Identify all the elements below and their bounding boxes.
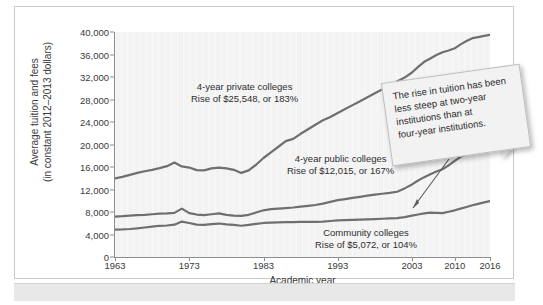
y-tick-mark <box>110 122 114 123</box>
x-tick-label: 1983 <box>253 260 274 271</box>
series-label-community-line1: Community colleges <box>315 227 417 239</box>
y-axis-title: Average tuition and fees (in constant 20… <box>28 7 54 217</box>
x-tick-mark <box>412 257 413 261</box>
y-tick-mark <box>110 189 114 190</box>
series-label-private-line2: Rise of $25,548, or 183% <box>191 93 298 105</box>
series-label-private: 4-year private colleges Rise of $25,548,… <box>191 81 298 105</box>
series-label-public-line2: Rise of $12,015, or 167% <box>287 165 394 177</box>
y-tick-mark <box>110 54 114 55</box>
x-tick-label: 1973 <box>179 260 200 271</box>
y-tick-mark <box>110 77 114 78</box>
series-label-community-line2: Rise of $5,072, or 104% <box>315 239 417 251</box>
series-label-public: 4-year public colleges Rise of $12,015, … <box>287 153 394 177</box>
y-tick-label: 40,000 <box>80 27 109 38</box>
y-tick-mark <box>110 32 114 33</box>
y-tick-label: 28,000 <box>80 94 109 105</box>
y-axis-title-line1: Average tuition and fees <box>28 7 41 217</box>
y-tick-label: 4,000 <box>85 229 109 240</box>
figure-panel: 04,0008,00012,00016,00020,00024,00028,00… <box>14 6 514 279</box>
x-axis-line <box>114 257 491 258</box>
y-tick-label: 16,000 <box>80 162 109 173</box>
y-axis-title-line2: (in constant 2012–2013 dollars) <box>41 7 54 217</box>
y-tick-mark <box>110 144 114 145</box>
x-tick-label: 1993 <box>327 260 348 271</box>
y-tick-label: 24,000 <box>80 117 109 128</box>
x-tick-mark <box>115 257 116 261</box>
series-label-private-line1: 4-year private colleges <box>191 81 298 93</box>
y-tick-label: 12,000 <box>80 184 109 195</box>
x-tick-label: 2016 <box>479 260 500 271</box>
y-tick-label: 32,000 <box>80 72 109 83</box>
x-tick-label: 1963 <box>104 260 125 271</box>
y-tick-label: 8,000 <box>85 207 109 218</box>
x-tick-mark <box>264 257 265 261</box>
x-tick-mark <box>455 257 456 261</box>
x-tick-label: 2010 <box>444 260 465 271</box>
y-tick-label: 36,000 <box>80 49 109 60</box>
series-label-public-line1: 4-year public colleges <box>287 153 394 165</box>
y-axis-line <box>114 32 115 258</box>
x-tick-mark <box>189 257 190 261</box>
footer-band <box>14 283 515 301</box>
x-tick-mark <box>338 257 339 261</box>
series-label-community: Community colleges Rise of $5,072, or 10… <box>315 227 417 251</box>
y-tick-label: 20,000 <box>80 139 109 150</box>
y-tick-mark <box>110 99 114 100</box>
y-axis-ticks: 04,0008,00012,00016,00020,00024,00028,00… <box>63 32 109 257</box>
y-tick-mark <box>110 257 114 258</box>
x-tick-mark <box>490 257 491 261</box>
y-tick-mark <box>110 167 114 168</box>
y-tick-mark <box>110 212 114 213</box>
y-tick-mark <box>110 234 114 235</box>
x-tick-label: 2003 <box>401 260 422 271</box>
